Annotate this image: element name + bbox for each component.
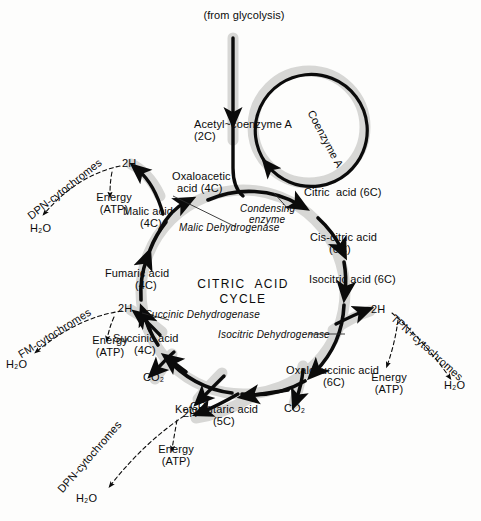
halo-layer (0, 0, 481, 521)
ink-layer (0, 0, 481, 521)
citric-acid-cycle-diagram: (from glycolysis) Acetyl~coenzyme A (2C)… (0, 0, 481, 521)
enzyme-isocitric-dehydrogenase: Isocitric Dehydrogenase (218, 329, 330, 341)
metabolite-fumaric-acid-line2: (4C) (135, 279, 157, 292)
metabolite-cis-citric-acid-line2: (6C) (329, 243, 351, 256)
energy-label-malate-line1: Energy (96, 191, 131, 204)
enzyme-malic-dehydrogenase: Malic Dehydrogenase (179, 222, 280, 234)
hydrogen-label-isocitrate: 2H (371, 303, 385, 316)
energy-label-isocitrate-line1: Energy (371, 371, 406, 384)
branch-stub-isocitrate-2h (336, 311, 364, 324)
water-label-succinate: H₂O (6, 358, 27, 371)
metabolite-ketoglutaric-acid-line2: (5C) (213, 415, 235, 428)
energy-label-isocitrate-line2: (ATP) (375, 383, 403, 396)
metabolite-malic-acid-line2: (4C) (140, 217, 162, 230)
metabolite-malic-acid-line1: Malic acid (123, 205, 173, 218)
metabolite-oxalosuccinic-acid-line2: (6C) (323, 376, 345, 389)
metabolite-acetyl-coenzyme-a-line2: (2C) (194, 130, 216, 143)
metabolite-oxaloacetic-acid-line2: acid (4C) (177, 182, 223, 195)
hydrogen-label-malate: 2H (122, 157, 136, 170)
input-label: (from glycolysis) (203, 9, 284, 22)
co2-label-from-oxalosuccinate: CO₂ (284, 402, 305, 415)
metabolite-acetyl-coenzyme-a-line1: Acetyl~coenzyme A (194, 118, 292, 131)
metabolite-fumaric-acid-line1: Fumaric acid (105, 267, 169, 280)
arrow-co2-from-ketoglutarate (201, 376, 224, 399)
co2-label-from-succinate: CO₂ (143, 371, 164, 384)
energy-label-succinate-line1: Energy (92, 334, 127, 347)
co2-label-from-ketoglutarate: CO₂ (190, 400, 211, 413)
metabolite-isocitric-acid: Isocitric acid (6C) (309, 273, 396, 286)
energy-label-malate-line2: (ATP) (100, 203, 128, 216)
energy-label-succinate-line2: (ATP) (96, 346, 124, 359)
metabolite-oxaloacetic-acid-line1: Oxaloacetic (172, 170, 231, 183)
hydrogen-label-succinate: 2H (118, 302, 132, 315)
cycle-title-line1: CITRIC ACID (197, 277, 288, 292)
energy-label-ketoglutarate-line1: Energy (158, 443, 193, 456)
carrier-dpn-cytochromes-bottom-left: DPN-cytochromes (55, 419, 124, 496)
metabolite-citric-acid: Citric acid (6C) (304, 186, 382, 199)
enzyme-condensing-enzyme-line1: Condensing (240, 203, 295, 215)
energy-label-ketoglutarate-line2: (ATP) (162, 455, 190, 468)
metabolite-cis-citric-acid-line1: Cis-citric acid (310, 231, 377, 244)
water-label-isocitrate: H₂O (444, 379, 465, 392)
cycle-title-line2: CYCLE (219, 292, 266, 307)
coenzyme-a-label: Coenzyme A (305, 108, 346, 170)
carrier-dpn-cytochromes-top-left: DPN-cytochromes (25, 156, 104, 222)
enzyme-succinic-dehydrogenase: Succinic Dehydrogenase (145, 309, 260, 321)
metabolite-oxalosuccinic-acid-line1: Oxalosuccinic acid (286, 364, 379, 377)
metabolite-succinic-acid-line2: (4C) (134, 344, 156, 357)
carrier-fm-cytochromes-left: FM-cytochromes (16, 306, 93, 361)
water-label-malate: H₂O (30, 222, 51, 235)
arrow-co2-from-succinate (155, 352, 174, 371)
arrow-ketoglutarate-to-succinate (166, 357, 232, 393)
water-label-ketoglutarate: H₂O (76, 492, 97, 505)
arrow-oxalosuccinate-to-ketoglutarate (242, 381, 305, 396)
